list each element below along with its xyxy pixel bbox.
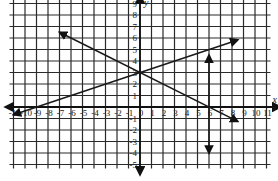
y-tick-label: -1 — [130, 114, 138, 124]
y-tick-label: 4 — [133, 56, 138, 66]
x-tick-label: -7 — [57, 108, 65, 118]
y-tick-label: 8 — [133, 10, 138, 20]
y-tick-label: -3 — [130, 137, 138, 147]
y-tick-label: 2 — [133, 79, 138, 89]
y-tick-label: 9 — [133, 0, 138, 9]
y-tick-label: 7 — [133, 22, 138, 32]
x-tick-label: 3 — [173, 108, 178, 118]
x-tick-label: -6 — [68, 108, 76, 118]
x-tick-label: 0 — [139, 108, 144, 118]
x-tick-label: 2 — [162, 108, 167, 118]
y-axis-label: y — [143, 0, 149, 8]
y-tick-label: -2 — [130, 125, 138, 135]
x-tick-label: 10 — [252, 108, 262, 118]
y-tick-label: -5 — [130, 160, 138, 170]
x-tick-label: -2 — [114, 108, 122, 118]
x-tick-label: 8 — [231, 108, 236, 118]
x-tick-label: -9 — [34, 108, 42, 118]
plot-line-increasing — [14, 40, 238, 115]
x-tick-label: 11 — [263, 108, 272, 118]
x-tick-label: -5 — [80, 108, 88, 118]
x-tick-label: 9 — [242, 108, 247, 118]
x-tick-label: 1 — [150, 108, 155, 118]
y-tick-label: -4 — [130, 148, 138, 158]
y-tick-label: 1 — [133, 91, 138, 101]
y-tick-label: 6 — [133, 33, 138, 43]
plot-series — [14, 32, 238, 153]
x-tick-label: 5 — [196, 108, 201, 118]
y-tick-label: 5 — [133, 45, 138, 55]
coordinate-plane: -11-10-9-8-7-6-5-4-3-2-101234567891011-5… — [0, 0, 278, 181]
x-tick-label: 4 — [185, 108, 190, 118]
x-tick-label: -4 — [91, 108, 99, 118]
x-axis-label: x — [272, 94, 278, 105]
x-tick-label: -3 — [103, 108, 111, 118]
x-tick-label: -8 — [45, 108, 53, 118]
